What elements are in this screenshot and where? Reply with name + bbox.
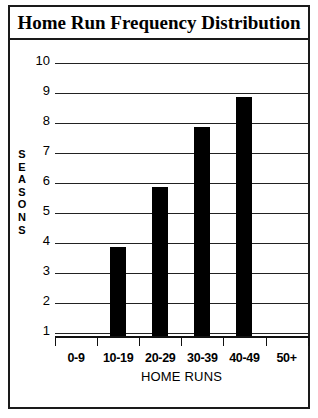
y-tick-label: 6 — [24, 174, 50, 188]
chart-title: Home Run Frequency Distribution — [10, 7, 308, 40]
chart-frame: Home Run Frequency Distribution S E A S … — [8, 5, 310, 409]
y-tick-label: 5 — [24, 204, 50, 218]
y-tick-label: 9 — [24, 84, 50, 98]
x-axis-tick — [223, 338, 224, 346]
bar[interactable] — [236, 97, 252, 337]
y-tick-label: 10 — [24, 54, 50, 68]
x-tick-label: 30-39 — [181, 351, 223, 366]
x-tick-label: 40-49 — [223, 351, 265, 366]
x-axis-title: HOME RUNS — [55, 369, 308, 385]
bar[interactable] — [194, 127, 210, 337]
y-tick-label: 1 — [24, 324, 50, 338]
x-axis-tick — [181, 338, 182, 346]
x-axis-tick — [139, 338, 140, 346]
x-tick-label: 0-9 — [55, 351, 97, 366]
y-tick-label: 8 — [24, 114, 50, 128]
x-axis-tick — [266, 338, 267, 346]
y-tick-label: 4 — [24, 234, 50, 248]
bar[interactable] — [110, 247, 126, 337]
y-tick-label: 7 — [24, 144, 50, 158]
x-tick-label: 20-29 — [139, 351, 181, 366]
y-tick-label: 3 — [24, 264, 50, 278]
x-tick-label: 50+ — [266, 351, 308, 366]
x-axis-tick — [308, 338, 309, 346]
x-axis-labels: 0-9 10-19 20-29 30-39 40-49 50+ — [55, 351, 308, 367]
y-tick-label: 2 — [24, 294, 50, 308]
x-tick-label: 10-19 — [97, 351, 139, 366]
x-axis-tick — [97, 338, 98, 346]
bar[interactable] — [152, 187, 168, 337]
y-axis-title-letter: E — [16, 161, 28, 174]
plot-area: S E A S O N S 10 9 8 7 6 5 — [10, 40, 308, 407]
x-axis-tick — [55, 338, 56, 346]
y-axis-title: S E A S O N S — [16, 148, 28, 236]
